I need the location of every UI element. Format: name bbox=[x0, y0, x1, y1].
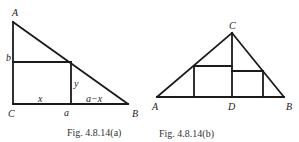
label-b: b bbox=[6, 52, 11, 63]
caption-figure-b: Fig. 4.8.14(b) bbox=[159, 128, 214, 140]
label-vertex-c: C bbox=[229, 20, 236, 31]
label-vertex-b: B bbox=[132, 108, 138, 119]
label-vertex-c: C bbox=[8, 108, 15, 119]
label-a-minus-x: a−x bbox=[86, 93, 103, 104]
caption-figure-a: Fig. 4.8.14(a) bbox=[67, 127, 121, 139]
label-a: a bbox=[64, 107, 69, 118]
label-x: x bbox=[37, 93, 43, 104]
label-vertex-b: B bbox=[286, 101, 292, 112]
figure-b: C A D B Fig. 4.8.14(b) bbox=[151, 20, 292, 140]
label-vertex-a: A bbox=[11, 7, 19, 18]
label-y: y bbox=[73, 78, 79, 89]
side-cb bbox=[232, 33, 284, 97]
label-vertex-a: A bbox=[151, 101, 159, 112]
figure-a: A b y x a−x C a B Fig. 4.8.14(a) bbox=[6, 7, 138, 139]
diagram-canvas: A b y x a−x C a B Fig. 4.8.14(a) C A D B… bbox=[0, 0, 299, 142]
label-vertex-d: D bbox=[227, 101, 236, 112]
